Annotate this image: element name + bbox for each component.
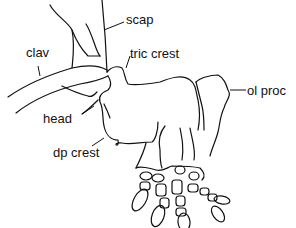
label-clav: clav (26, 46, 49, 59)
label-scap: scap (126, 13, 153, 26)
clav-leader (38, 66, 40, 76)
forelimb-skeleton-diagram: scap clav tric crest ol proc head dp cre… (0, 0, 296, 228)
manus-outline (129, 166, 231, 228)
scapula-outline (50, 0, 107, 72)
label-tric-crest: tric crest (130, 47, 179, 60)
head-leader (82, 106, 94, 114)
humerus-outline (62, 67, 200, 145)
scap-leader (104, 22, 124, 30)
label-dp-crest: dp crest (53, 146, 99, 159)
label-ol-proc: ol proc (247, 84, 286, 97)
label-head: head (43, 112, 72, 125)
forearm-outline (136, 75, 229, 168)
clavicle-outline (8, 66, 108, 113)
